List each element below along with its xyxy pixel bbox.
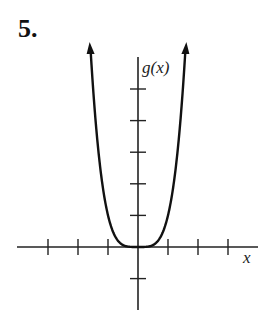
x-axis-label: x xyxy=(243,248,251,268)
y-axis-label: g(x) xyxy=(142,58,169,78)
graph xyxy=(0,0,277,331)
